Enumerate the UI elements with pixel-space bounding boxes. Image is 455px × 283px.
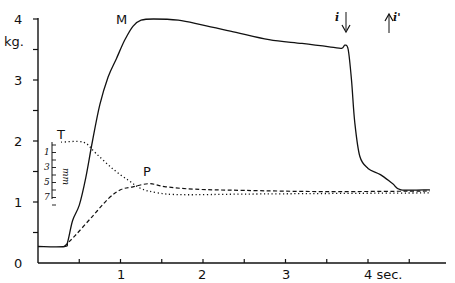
inset-label-1: 1 (44, 147, 50, 157)
curve-label-t: T (56, 127, 65, 142)
chart-canvas: kg. 0 1 2 3 4 1 2 3 4 sec. M T P i i' 1 … (0, 0, 455, 283)
inset-scale-ticks (52, 145, 56, 205)
marker-i-prime-label: i' (393, 11, 401, 24)
inset-mm-scale: 1 3 5 7 mm (44, 142, 71, 205)
curve-t-dotted (61, 141, 430, 194)
x-tick-label-3: 3 (282, 267, 290, 282)
x-tick-label-1: 1 (117, 267, 125, 282)
inset-label-7: 7 (44, 192, 50, 202)
marker-i-label: i (335, 11, 339, 24)
x-tick-label-2: 2 (198, 267, 206, 282)
marker-i-prime: i' (385, 11, 401, 33)
curve-label-m: M (116, 12, 127, 27)
y-tick-label-2: 2 (14, 134, 22, 149)
inset-label-5: 5 (44, 177, 50, 187)
y-tick-label-1: 1 (14, 195, 22, 210)
axes (33, 18, 446, 263)
x-tick-label-4-sec: 4 sec. (364, 267, 402, 282)
y-tick-label-0: 0 (14, 256, 22, 271)
inset-label-3: 3 (44, 162, 50, 172)
curve-label-p: P (143, 164, 151, 179)
y-ticks (33, 19, 38, 233)
y-tick-label-3: 3 (14, 73, 22, 88)
y-axis-unit-label: kg. (4, 34, 24, 49)
marker-i: i (335, 11, 350, 32)
curve-m-solid (38, 19, 430, 247)
y-tick-label-4: 4 (14, 12, 22, 27)
inset-unit-mm: mm (61, 168, 71, 185)
